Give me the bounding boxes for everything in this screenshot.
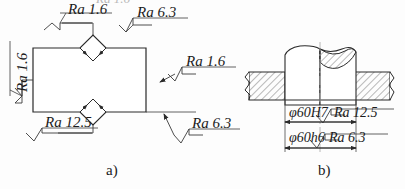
surface-finish-symbol-top-left — [44, 23, 92, 30]
housing-right-body — [355, 72, 390, 100]
caption-b: b) — [318, 163, 331, 178]
surface-finish-symbol-top-right — [119, 18, 152, 32]
housing-right — [355, 72, 394, 100]
drawing-canvas — [0, 0, 405, 189]
label-ra-top-right: Ra 6.3 — [137, 5, 176, 20]
label-ra-bottom-left: Ra 12.5 — [45, 115, 92, 130]
label-ra-bottom-right: Ra 6.3 — [192, 116, 231, 131]
label-ra-right: Ra 1.6 — [186, 54, 225, 69]
caption-a: a) — [106, 163, 118, 178]
housing-left — [245, 72, 285, 100]
technical-drawing-figure: Ra 1.6 — [0, 0, 405, 189]
callout-a-top-right-stem — [126, 25, 133, 32]
label-dim-hole: φ60H7 — [289, 106, 328, 120]
label-ra-top-left: Ra 1.6 — [68, 2, 107, 17]
callout-a-top-left-leader — [62, 23, 93, 35]
callout-a-top-left-riser — [60, 13, 66, 23]
surface-finish-symbol-bottom-right — [174, 129, 203, 143]
label-ra-left: Ra 1.6 — [15, 53, 30, 92]
plate-outline — [33, 35, 146, 125]
callout-a-bottom-right-leader — [164, 114, 174, 135]
shaft-body-left — [285, 46, 320, 105]
label-dim-shaft: φ60h6 — [289, 131, 325, 145]
housing-left-body — [249, 72, 285, 100]
label-finish-shaft: Ra 6.3 — [329, 131, 366, 145]
label-finish-hole: Ra 12.5 — [334, 106, 378, 120]
surface-finish-symbol-right — [168, 67, 196, 81]
callout-a-right-leader — [160, 74, 175, 82]
